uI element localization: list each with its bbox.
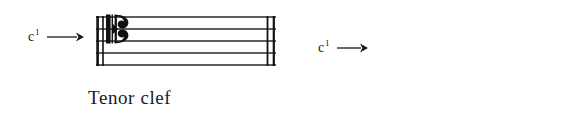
pitch-label-superscript-alto: 1 [325, 38, 330, 48]
pitch-label-base-tenor: c [28, 29, 34, 44]
clef-comparison-figure: c1 [0, 0, 580, 123]
staff-tenor [96, 12, 276, 78]
right-arrow-icon [336, 41, 370, 55]
pitch-label-superscript-tenor: 1 [35, 27, 40, 37]
pitch-label-tenor: c1 [28, 30, 40, 44]
clef-example-alto: c1 [290, 0, 580, 123]
caption-tenor: Tenor clef [88, 87, 171, 109]
pitch-pointer-alto: c1 [318, 41, 370, 55]
pitch-label-alto: c1 [318, 41, 330, 55]
right-arrow-icon [46, 30, 86, 44]
pitch-pointer-tenor: c1 [28, 30, 86, 44]
pitch-label-base-alto: c [318, 40, 324, 55]
clef-example-tenor: c1 [0, 0, 290, 123]
